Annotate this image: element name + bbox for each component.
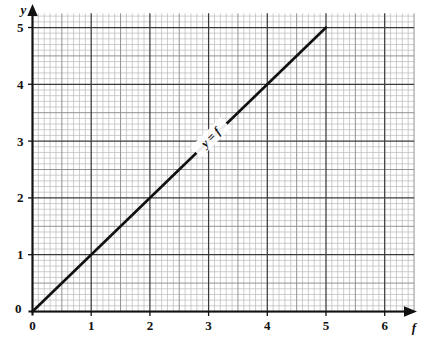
y-tick-label: 1 bbox=[17, 247, 24, 262]
y-tick-label: 4 bbox=[17, 77, 24, 92]
x-tick-label: 2 bbox=[147, 318, 154, 333]
x-tick-label: 1 bbox=[88, 318, 95, 333]
x-tick-label: 6 bbox=[381, 318, 388, 333]
y-tick-label: 2 bbox=[17, 190, 24, 205]
y-tick-label: 0 bbox=[15, 301, 22, 316]
y-tick-label: 3 bbox=[17, 134, 24, 149]
graph-figure: 0123456 012345 y f y = f bbox=[0, 0, 429, 351]
x-tick-label: 4 bbox=[264, 318, 271, 333]
y-axis-label: y bbox=[19, 2, 27, 17]
x-tick-label: 5 bbox=[323, 318, 330, 333]
x-tick-label: 0 bbox=[29, 318, 36, 333]
x-tick-label: 3 bbox=[205, 318, 212, 333]
coordinate-plot: 0123456 012345 y f y = f bbox=[0, 0, 429, 351]
y-tick-label: 5 bbox=[17, 20, 24, 35]
